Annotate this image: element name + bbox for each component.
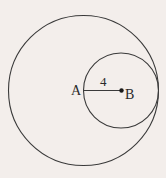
- point-b-label: B: [125, 87, 134, 102]
- circles-diagram: A B 4: [0, 0, 166, 178]
- point-a-label: A: [71, 83, 82, 98]
- segment-length-label: 4: [100, 74, 107, 89]
- point-b-dot: [119, 88, 123, 92]
- geometry-figure: A B 4: [0, 0, 166, 178]
